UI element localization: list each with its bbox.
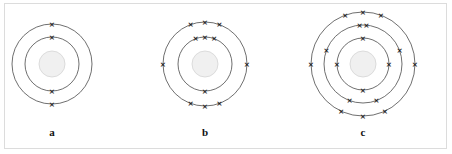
electron-b-s2-5: × (187, 99, 193, 108)
electron-c-s3-2: × (378, 11, 384, 20)
electron-b-s2-1: × (187, 20, 193, 29)
electron-b-s2-4: × (244, 60, 250, 69)
nucleus-a (39, 51, 65, 77)
atom-label-b: b (185, 127, 225, 138)
electron-c-s2-5: × (347, 96, 353, 105)
atom-label-a: a (32, 127, 72, 138)
electron-a-s1-1: × (49, 33, 55, 42)
atomic-structure-figure: ×××× a ×××××××××××× b ××××××××××××××××××… (0, 0, 452, 154)
electron-c-s1-4: × (386, 60, 392, 69)
atom-c-svg: ×××××××××××××××××× (300, 0, 440, 130)
electron-c-s3-6: × (338, 107, 344, 116)
electron-b-s2-2: × (216, 20, 222, 29)
atom-diagram-b: ×××××××××××× (145, 0, 275, 130)
electron-c-s3-3: × (360, 8, 366, 17)
atom-diagram-c: ×××××××××××××××××× (300, 0, 440, 130)
atom-a-svg: ×××× (0, 0, 120, 130)
atom-c-shells: ×××××××××××××××××× (300, 0, 440, 130)
electron-c-s2-4: × (396, 46, 402, 55)
electron-b-s1-1: × (202, 33, 208, 42)
electron-c-s3-7: × (382, 107, 388, 116)
electron-b-s2-7: × (202, 102, 208, 111)
electron-c-s3-1: × (342, 11, 348, 20)
electron-c-s2-3: × (323, 46, 329, 55)
electron-c-s2-1: × (356, 21, 362, 30)
atom-b-shells: ×××××××××××× (145, 0, 275, 130)
atom-a-shells: ×××× (0, 0, 120, 130)
electron-a-s2-2: × (49, 100, 55, 109)
electron-b-s1-4: × (211, 34, 217, 43)
electron-c-s1-3: × (334, 60, 340, 69)
atom-label-c: c (343, 127, 383, 138)
electron-c-s3-4: × (308, 60, 314, 69)
electron-c-s3-8: × (360, 112, 366, 121)
atom-b-svg: ×××××××××××× (145, 0, 275, 130)
electron-c-s2-2: × (363, 21, 369, 30)
electron-a-s2-1: × (49, 20, 55, 29)
electron-b-s2-3: × (160, 60, 166, 69)
electron-c-s3-5: × (412, 60, 418, 69)
atom-diagram-a: ×××× (0, 0, 120, 130)
electron-b-s2-8: × (202, 18, 208, 27)
electron-b-s2-6: × (216, 99, 222, 108)
nucleus-c (350, 51, 376, 77)
electron-a-s1-2: × (49, 87, 55, 96)
electron-c-s1-1: × (360, 34, 366, 43)
electron-c-s1-2: × (360, 86, 366, 95)
nucleus-b (192, 51, 218, 77)
electron-b-s1-3: × (193, 34, 199, 43)
electron-c-s2-6: × (373, 96, 379, 105)
electron-b-s1-2: × (202, 87, 208, 96)
